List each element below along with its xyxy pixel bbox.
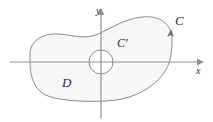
inner-curve-label: C' [117,37,128,49]
x-axis-label: x [196,66,200,76]
y-axis-label: y [96,6,100,16]
outer-curve-label: C [175,14,184,27]
math-figure: C C' D x y [0,0,213,122]
region-label: D [62,76,71,89]
